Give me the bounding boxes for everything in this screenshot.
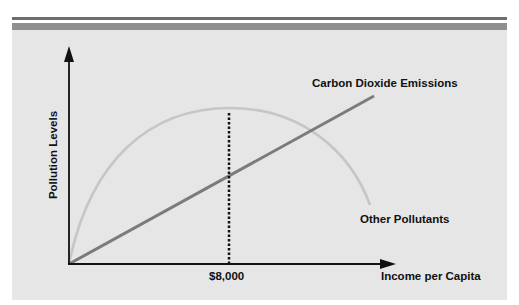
y-axis-label: Pollution Levels [47,111,59,199]
other-pollutants-label: Other Pollutants [360,213,449,225]
y-axis-arrow-icon [64,46,74,62]
co2-series-label: Carbon Dioxide Emissions [312,77,458,89]
x-axis-label: Income per Capita [381,270,481,282]
x-axis-arrow-icon [380,259,396,269]
chart-plot [0,0,519,305]
co2-emissions-line [69,96,374,264]
x-tick-8000: $8,000 [209,270,244,282]
